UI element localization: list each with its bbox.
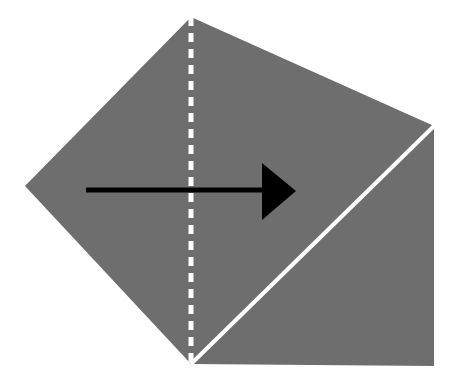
origami-fold-figure: Gray pentagon sheet with a white vertica… xyxy=(0,0,459,389)
origami-diagram-canvas: Gray pentagon sheet with a white vertica… xyxy=(0,0,459,389)
